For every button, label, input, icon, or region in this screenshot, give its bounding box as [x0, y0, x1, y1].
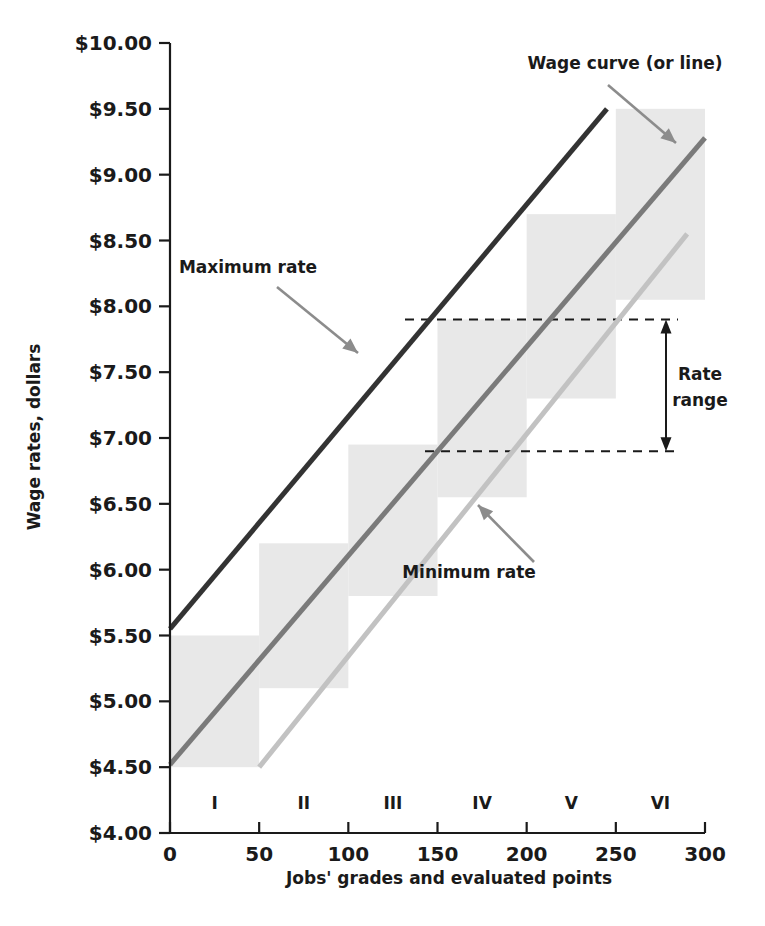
y-axis-title: Wage rates, dollars	[24, 344, 44, 531]
y-tick-label-8: $8.00	[89, 294, 152, 318]
x-tick-label-1: 50	[245, 842, 273, 866]
x-axis-tick-labels: 050100150200250300	[163, 842, 726, 866]
grade-label-vi: VI	[651, 793, 670, 813]
grade-roman-numeral-labels: IIIIIIIVVVI	[211, 793, 670, 813]
grade-label-v: V	[565, 793, 579, 813]
annotation-wage-curve: Wage curve (or line)	[527, 53, 722, 73]
grade-label-iii: III	[383, 793, 402, 813]
annotation-rate-range-line-1: Rate	[678, 364, 722, 384]
y-tick-label-1: $4.50	[89, 755, 152, 779]
x-tick-label-5: 250	[595, 842, 637, 866]
grade-band-box-v	[527, 214, 616, 398]
rate-range-arrowhead-top	[661, 320, 672, 334]
grade-band-box-iv	[438, 320, 527, 498]
rate-range-arrow	[661, 320, 672, 452]
y-tick-label-4: $6.00	[89, 558, 152, 582]
annotation-minimum-rate: Minimum rate	[402, 562, 536, 582]
line-minimum-rate	[259, 234, 687, 767]
leader-maximum-rate	[277, 287, 358, 353]
x-tick-label-6: 300	[684, 842, 726, 866]
annotation-rate-range-line-2: range	[672, 390, 728, 410]
y-tick-label-10: $9.00	[89, 163, 152, 187]
x-tick-label-2: 100	[327, 842, 369, 866]
y-tick-label-0: $4.00	[89, 821, 152, 845]
wage-structure-chart: $4.00$4.50$5.00$5.50$6.00$6.50$7.00$7.50…	[0, 0, 765, 926]
x-tick-label-4: 200	[506, 842, 548, 866]
grade-label-i: I	[211, 793, 217, 813]
y-tick-label-2: $5.00	[89, 689, 152, 713]
chart-canvas: $4.00$4.50$5.00$5.50$6.00$6.50$7.00$7.50…	[0, 0, 765, 926]
grade-label-ii: II	[297, 793, 310, 813]
y-tick-label-6: $7.00	[89, 426, 152, 450]
y-tick-label-9: $8.50	[89, 229, 152, 253]
annotation-maximum-rate: Maximum rate	[179, 257, 317, 277]
y-axis-tick-labels: $4.00$4.50$5.00$5.50$6.00$6.50$7.00$7.50…	[75, 31, 152, 845]
rate-range-arrowhead-bottom	[661, 437, 672, 451]
grade-label-iv: IV	[472, 793, 492, 813]
x-axis-title: Jobs' grades and evaluated points	[285, 868, 612, 888]
y-tick-label-3: $5.50	[89, 624, 152, 648]
x-tick-label-3: 150	[417, 842, 459, 866]
y-tick-label-7: $7.50	[89, 360, 152, 384]
y-tick-label-12: $10.00	[75, 31, 152, 55]
grade-band-box-ii	[259, 543, 348, 688]
y-tick-label-5: $6.50	[89, 492, 152, 516]
y-tick-label-11: $9.50	[89, 97, 152, 121]
x-tick-label-0: 0	[163, 842, 177, 866]
